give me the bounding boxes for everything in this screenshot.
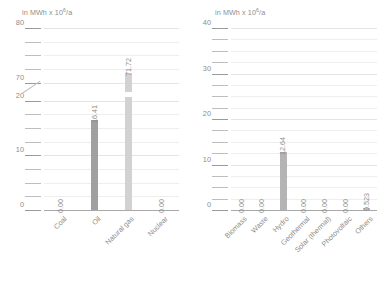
axis-break-icon [23, 87, 43, 101]
y-axis-tick-minor [25, 183, 41, 184]
bar-value-label: 0.00 [321, 199, 328, 213]
gridline [231, 165, 377, 166]
y-axis-tick-minor [25, 114, 41, 115]
bar-segment-lower [125, 97, 132, 210]
y-axis-label: 10 [2, 146, 24, 154]
bar-value-label: 0.00 [342, 199, 349, 213]
gridline [231, 39, 377, 40]
gridline [44, 69, 179, 70]
y-axis-tick-minor [25, 169, 41, 170]
y-axis-tick-minor [25, 55, 41, 56]
y-axis-label: 40 [189, 19, 211, 27]
gridline [231, 51, 377, 52]
plot-area-fossil: 8070201000.00Coal16.41Oil71.72Natural ga… [44, 28, 179, 210]
y-axis-label: 10 [189, 156, 211, 164]
bar-value-label: 16.41 [91, 105, 98, 123]
y-axis-tick-minor [212, 187, 228, 188]
axis-unit-caption-left-text: in MWh x 10 [22, 8, 63, 17]
gridline [44, 169, 179, 170]
y-axis-label: 20 [189, 110, 211, 118]
gridline [44, 28, 179, 29]
y-axis-tick-minor [212, 62, 228, 63]
gridline [44, 83, 179, 84]
chart-page: in MWh x 106/a 8070201000.00Coal16.41Oil… [0, 0, 387, 283]
y-axis-tick-major [212, 210, 228, 211]
y-axis-label: 70 [2, 74, 24, 82]
gridline [231, 176, 377, 177]
y-axis-tick-minor [212, 130, 228, 131]
gridline [44, 55, 179, 56]
y-axis-tick-major [212, 28, 228, 29]
gridline [231, 74, 377, 75]
gridline [231, 85, 377, 86]
y-axis-tick-minor [25, 142, 41, 143]
y-axis-tick-major [212, 74, 228, 75]
bar-value-label: 0.00 [238, 199, 245, 213]
y-axis-tick-major [25, 155, 41, 156]
y-axis-label: 80 [2, 19, 24, 27]
gridline [231, 28, 377, 29]
gridline [231, 119, 377, 120]
bar-value-label: 71.72 [125, 58, 132, 76]
gridline [44, 142, 179, 143]
plot-area-renewables: 4030201000.00Biomass0.00Waste12.64Hydro0… [231, 28, 377, 210]
y-axis-tick-minor [25, 69, 41, 70]
bar-segment-upper [125, 73, 132, 91]
bar [280, 152, 287, 210]
axis-unit-suffix-right: /a [259, 8, 265, 17]
chart-panel-fossil: in MWh x 106/a 8070201000.00Coal16.41Oil… [0, 0, 193, 283]
bar-value-label: 0.523 [363, 193, 370, 211]
gridline [231, 142, 377, 143]
y-axis-tick-major [25, 28, 41, 29]
y-axis-tick-minor [25, 196, 41, 197]
bar [91, 120, 98, 210]
gridline [44, 114, 179, 115]
gridline [231, 62, 377, 63]
y-axis-tick-minor [212, 96, 228, 97]
gridline [44, 128, 179, 129]
gridline [231, 130, 377, 131]
bar-value-label: 0.00 [300, 199, 307, 213]
y-axis-label: 0 [2, 201, 24, 209]
y-axis-tick-major [212, 119, 228, 120]
gridline [44, 196, 179, 197]
y-axis-tick-minor [212, 108, 228, 109]
y-axis-label: 0 [189, 201, 211, 209]
y-axis-tick-minor [212, 85, 228, 86]
y-axis-tick-minor [25, 42, 41, 43]
y-axis-tick-minor [212, 199, 228, 200]
bar-value-label: 12.64 [279, 137, 286, 155]
y-axis-tick-major [25, 101, 41, 102]
y-axis-tick-minor [212, 51, 228, 52]
axis-unit-caption-left: in MWh x 106/a [22, 8, 72, 17]
bar-value-label: 0.00 [57, 199, 64, 213]
axis-unit-suffix-left: /a [66, 8, 72, 17]
gridline [44, 101, 179, 102]
y-axis-tick-major [25, 210, 41, 211]
bar-value-label: 0.00 [158, 199, 165, 213]
axis-unit-caption-right: in MWh x 106/a [215, 8, 265, 17]
bar-value-label: 0.00 [258, 199, 265, 213]
gridline [44, 183, 179, 184]
y-axis-label: 30 [189, 65, 211, 73]
gridline [44, 155, 179, 156]
y-axis-tick-minor [212, 153, 228, 154]
y-axis-tick-minor [212, 176, 228, 177]
gridline [44, 42, 179, 43]
y-axis-tick-minor [212, 142, 228, 143]
y-axis-tick-major [212, 165, 228, 166]
axis-unit-caption-right-text: in MWh x 10 [215, 8, 256, 17]
gridline [231, 187, 377, 188]
gridline [231, 153, 377, 154]
gridline [231, 108, 377, 109]
chart-panel-renewables: in MWh x 106/a 4030201000.00Biomass0.00W… [193, 0, 387, 283]
y-axis-tick-minor [25, 128, 41, 129]
y-axis-tick-minor [212, 39, 228, 40]
gridline [231, 96, 377, 97]
